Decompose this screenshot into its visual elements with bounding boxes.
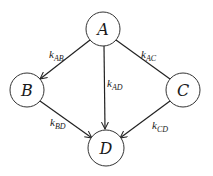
graph-diagram: A B C D kAB kAC kAD kBD kCD bbox=[0, 0, 213, 176]
edge-a-b bbox=[40, 40, 90, 79]
node-b: B bbox=[10, 73, 44, 107]
node-d: D bbox=[88, 130, 124, 166]
node-d-label: D bbox=[99, 139, 113, 158]
edge-label-cd: kCD bbox=[152, 119, 168, 134]
edge-label-ac: kAC bbox=[141, 48, 157, 63]
node-a-label: A bbox=[95, 20, 109, 39]
node-b-label: B bbox=[20, 81, 33, 100]
edge-b-d bbox=[40, 101, 92, 138]
node-c-label: C bbox=[177, 81, 189, 100]
node-a: A bbox=[86, 12, 120, 46]
node-c: C bbox=[166, 73, 200, 107]
edge-label-ab: kAB bbox=[49, 48, 64, 63]
edge-label-ad: kAD bbox=[107, 77, 123, 92]
edge-a-d bbox=[104, 46, 105, 129]
